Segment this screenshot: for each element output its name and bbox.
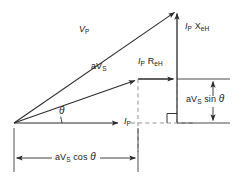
label-avs-cos-theta: aVS cos θ (55, 152, 96, 162)
right-angle-icon (167, 114, 177, 124)
construction-lines (131, 79, 196, 152)
label-avs-sin-theta: aVS sin θ (186, 94, 224, 104)
label-ip-reh: IP ReH (138, 57, 163, 66)
label-avs: aVS (91, 62, 107, 71)
label-ip: IP (124, 117, 131, 126)
angle-arc-icon (61, 117, 62, 123)
vector-avs (14, 81, 135, 123)
label-vp: VP (79, 25, 90, 34)
label-ip-xeh: IP XeH (185, 22, 209, 31)
phasor-diagram: VP aVS IP ReH IP XeH IP θ aVS sin θ aVS … (0, 0, 242, 179)
label-theta: θ (59, 106, 65, 116)
extension-lines (14, 128, 138, 172)
